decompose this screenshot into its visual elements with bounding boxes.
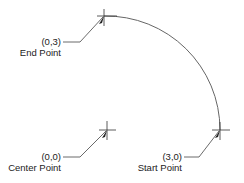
center-point-coord: (0,0) [8,151,61,162]
start-point-label: (3,0) Start Point [138,151,182,173]
end-point-name: End Point [20,47,61,58]
center-point-label: (0,0) Center Point [8,151,61,173]
center-point-crosshair [99,121,116,140]
start-point-name: Start Point [138,162,182,173]
center-point-name: Center Point [8,162,61,173]
center-point-leader [63,131,106,157]
end-point-label: (0,3) End Point [20,36,61,58]
start-point-crosshair [212,122,230,140]
end-point-coord: (0,3) [20,36,61,47]
start-point-coord: (3,0) [138,151,182,162]
end-point-leader [63,17,103,42]
arc-curve [104,16,220,130]
start-point-leader [184,131,219,157]
